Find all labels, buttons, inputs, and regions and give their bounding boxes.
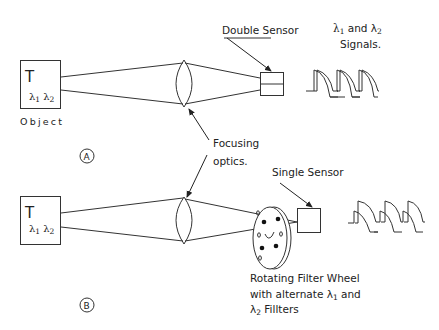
marker-a-label: A xyxy=(84,152,91,162)
object-lambdas-a: λ1λ2 xyxy=(29,91,54,104)
ray-a-bottom-2 xyxy=(185,90,260,104)
lambda1-filter xyxy=(262,220,267,225)
object-title-a: T xyxy=(24,68,35,86)
object-label: Object xyxy=(20,116,64,127)
lambda1-filter xyxy=(274,244,279,249)
ray-a-top-2 xyxy=(185,63,260,78)
lambda1-filter xyxy=(260,246,265,251)
focusing-optics-label-line1: Focusing xyxy=(213,137,259,149)
marker-b-label: B xyxy=(84,301,90,311)
lambda2-filter xyxy=(257,211,260,215)
focusing-optics-label-line2: optics. xyxy=(213,155,248,167)
single-sensor-label: Single Sensor xyxy=(272,166,344,178)
filter-wheel-label-line2: with alternate λ1 and xyxy=(250,288,361,302)
ray-b-bottom-1 xyxy=(61,227,183,241)
lens-a xyxy=(176,60,192,107)
rotating-filter-wheel xyxy=(253,207,291,269)
object-lambdas-b: λ1λ2 xyxy=(29,223,54,236)
lens-b xyxy=(176,197,192,244)
panel-b: T λ1λ2 Singl xyxy=(21,166,426,317)
filter-wheel-label-line1: Rotating Filter Wheel xyxy=(250,272,360,284)
focusing-optics-callout: Focusing optics. xyxy=(187,109,259,197)
single-sensor-arrow xyxy=(280,183,312,207)
single-sensor xyxy=(298,209,321,233)
object-title-b: T xyxy=(24,204,35,222)
double-sensor-arrow xyxy=(227,38,271,71)
signals-label-line2: Signals. xyxy=(340,38,381,50)
filter-wheel-label-line3: λ2 Fillters xyxy=(250,303,299,317)
ray-a-bottom-1 xyxy=(61,90,183,104)
lambda1-filter xyxy=(276,217,281,222)
panel-a: T λ1λ2 Object Double Sensor λ1 and λ2 Si… xyxy=(20,22,382,163)
optics-arrow-b xyxy=(187,155,207,197)
signal-waveform-b xyxy=(348,201,425,232)
optical-diagram: T λ1λ2 Object Double Sensor λ1 and λ2 Si… xyxy=(0,0,439,330)
ray-b-top-1 xyxy=(61,198,183,213)
optics-arrow-a xyxy=(189,109,209,140)
signal-waveform-a xyxy=(306,70,379,97)
signals-label-line1: λ1 and λ2 xyxy=(333,22,382,36)
double-sensor-label: Double Sensor xyxy=(222,24,299,36)
ray-a-top-1 xyxy=(61,63,183,77)
